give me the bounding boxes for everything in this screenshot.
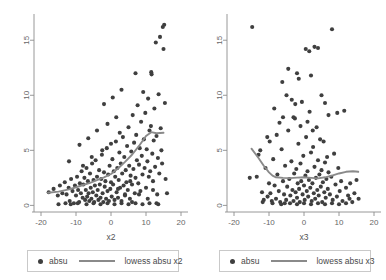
y-tick-label: 10 [216, 90, 225, 99]
y-tick-label: 5 [23, 148, 32, 153]
y-tick-label: 15 [216, 35, 225, 44]
x-tick-label: 20 [370, 218, 379, 227]
y-tick-label: 10 [23, 90, 32, 99]
x-tick-label: -20 [35, 218, 47, 227]
x-tick-label: 20 [177, 218, 186, 227]
x-tick-label: 0 [109, 218, 114, 227]
legend-x3: absu lowess absu x3 [219, 250, 371, 272]
legend-line-label: lowess absu x3 [316, 256, 374, 266]
y-tick-label: 5 [216, 148, 225, 153]
x-tick-label: 10 [142, 218, 151, 227]
x-tick-label: -20 [228, 218, 240, 227]
x-axis-title: x2 [107, 232, 116, 242]
x-tick-label: -10 [70, 218, 82, 227]
legend-marker-label: absu [241, 256, 259, 266]
plot-area-x2: 051015-20-1001020x2 [0, 0, 193, 246]
y-tick-label: 0 [216, 203, 225, 208]
y-tick-label: 15 [23, 35, 32, 44]
legend-line-icon [271, 260, 307, 262]
x-tick-label: 10 [335, 218, 344, 227]
x-tick-label: -10 [263, 218, 275, 227]
panel-x3: 051015-20-1001020x3 [193, 0, 386, 280]
x-axis-title: x3 [300, 232, 309, 242]
legend-line-icon [79, 260, 115, 262]
legend-line-label: lowess absu x2 [124, 256, 182, 266]
legend-x2: absu lowess absu x2 [27, 250, 179, 272]
plot-area-x3: 051015-20-1001020x3 [193, 0, 386, 246]
scatter-points [248, 25, 361, 206]
scatter-points [47, 23, 169, 207]
x-tick-label: 0 [302, 218, 307, 227]
legend-marker-icon [38, 259, 43, 264]
panel-x2: 051015-20-1001020x2 [0, 0, 193, 280]
legend-marker-icon [230, 259, 235, 264]
y-tick-label: 0 [23, 203, 32, 208]
legend-marker-label: absu [49, 256, 67, 266]
scatter-figure: 051015-20-1001020x2 051015-20-1001020x3 … [0, 0, 386, 280]
